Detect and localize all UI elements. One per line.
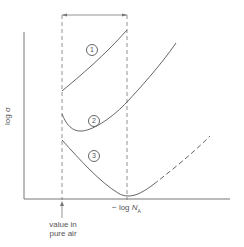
- curve-3-label: 3: [88, 150, 100, 162]
- curve-1-label: 1: [86, 44, 98, 56]
- y-axis-label: log σ: [3, 107, 12, 125]
- curve-2-label: 2: [88, 115, 100, 127]
- x-axis-label-sub: A: [138, 208, 141, 214]
- range-arrow-right-icon: [122, 14, 127, 17]
- curve-3-solid: [62, 140, 154, 196]
- curve-2: [62, 43, 176, 131]
- range-arrow-left-icon: [62, 14, 67, 17]
- annotation-arrow-up-icon: [60, 201, 64, 206]
- x-axis-label: − log NA: [112, 203, 141, 214]
- curve-3-dashed-extension: [154, 136, 210, 184]
- annotation-line-1: value in: [40, 220, 86, 229]
- curve-1: [62, 30, 127, 91]
- x-axis-label-prefix: − log: [112, 203, 132, 212]
- annotation-line-2: pure air: [40, 229, 86, 238]
- pure-air-annotation: value in pure air: [40, 220, 86, 238]
- diagram-canvas: 1 2 3 log σ − log NA value in pure air: [0, 0, 244, 247]
